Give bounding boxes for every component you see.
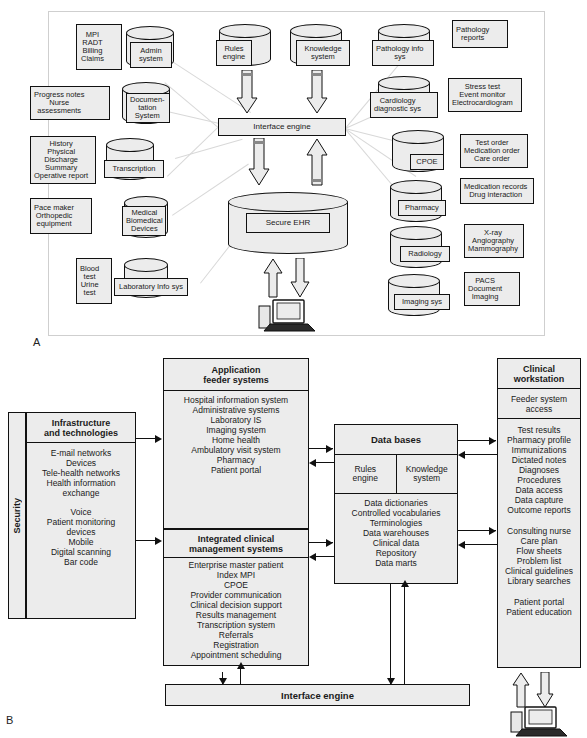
label-imaging-sys-text: Imaging sys (402, 298, 442, 306)
databases-items: Data dictionariesControlled vocabularies… (335, 494, 457, 571)
label-imaging-sys: Imaging sys (394, 294, 450, 310)
note-documentation-text: Progress notesNurseassessments (34, 91, 84, 115)
label-rules-engine-text: Rulesengine (223, 45, 246, 61)
note-medical-devices-text: Pace makerOrthopedicequipment (34, 204, 74, 228)
note-pacs-text: PACSDocumentImaging (468, 277, 502, 301)
label-pharmacy: Pharmacy (398, 200, 446, 216)
label-documentation-system-text: Documen-tationSystem (130, 96, 165, 120)
note-orders: Test orderMedication orderCare order (460, 134, 528, 168)
label-medical-devices-text: MedicalBiomedicalDevices (126, 209, 163, 233)
arrow-workstation-down-to-ehr (290, 258, 310, 298)
databases-title: Data bases (335, 425, 457, 455)
note-pathology-reports: Pathologyreports (452, 20, 508, 48)
note-medical-devices: Pace makerOrthopedicequipment (30, 198, 92, 234)
panel-b-interface-engine: Interface engine (165, 684, 470, 706)
label-cardiology-diagnostic-sys-text: Cardiologydiagnostic sys (374, 97, 421, 113)
arrow-knowledge-to-interface (306, 70, 328, 114)
application-feeder-title: Applicationfeeder systems (164, 359, 308, 391)
databases-rules-engine: Rulesengine (335, 455, 397, 493)
label-radiology: Radiology (400, 246, 450, 262)
note-radiology-modalities: X-rayAngiographyMammography (464, 224, 524, 258)
clinical-workstation-group1: Test resultsPharmacy profileImmunization… (498, 419, 580, 518)
note-orders-text: Test orderMedication orderCare order (464, 139, 520, 163)
label-transcription-text: Transcription (112, 165, 155, 173)
security-band: Security (8, 412, 26, 619)
clinical-workstation-group3: Patient portalPatient education (498, 589, 580, 620)
application-feeder-items: Hospital information systemAdministrativ… (164, 391, 308, 478)
label-transcription: Transcription (104, 160, 164, 178)
arrow-workstation-up-panel-b (512, 672, 530, 708)
label-admin-system-text: Adminsystem (139, 47, 163, 63)
note-documentation: Progress notesNurseassessments (30, 86, 110, 120)
label-pathology-info-sys: Pathology infosys (372, 40, 434, 66)
label-knowledge-system: Knowledgesystem (296, 40, 350, 66)
panel-a-interface-engine-text: Interface engine (253, 123, 310, 132)
arrow-ehr-to-interface (306, 138, 328, 186)
label-rules-engine: Rulesengine (216, 40, 252, 66)
note-admin: MPIRADTBillingClaims (76, 24, 122, 70)
panel-a-label: A (33, 336, 40, 348)
note-medication-records: Medication recordsDrug interaction (460, 178, 534, 204)
application-feeder-box: Applicationfeeder systems Hospital infor… (163, 358, 309, 529)
integrated-clinical-items: Enterprise master patientIndex MPICPOEPr… (164, 558, 308, 663)
label-laboratory-info-sys: Laboratory Info sys (114, 278, 188, 296)
panel-b-label: B (6, 714, 13, 726)
note-transcription-text: HistoryPhysicalDischargeSummaryOperative… (34, 140, 88, 180)
arrow-ehr-up-to-workstation (263, 258, 283, 298)
note-admin-text: MPIRADTBillingClaims (81, 31, 104, 63)
clinical-workstation-access: Feeder systemaccess (498, 389, 580, 419)
label-cardiology-diagnostic-sys: Cardiologydiagnostic sys (370, 92, 438, 118)
clinical-workstation-group2: Consulting nurseCare planFlow sheetsProb… (498, 518, 580, 589)
clinical-workstation-box: Clinicalworkstation Feeder systemaccess … (497, 358, 581, 668)
infrastructure-group2: VoicePatient monitoringdevicesMobileDigi… (27, 501, 135, 570)
label-secure-ehr-text: Secure EHR (266, 219, 310, 228)
label-pathology-info-sys-text: Pathology infosys (376, 45, 424, 61)
label-radiology-text: Radiology (408, 250, 441, 258)
label-secure-ehr: Secure EHR (246, 213, 330, 233)
arrow-interface-to-ehr (248, 138, 270, 186)
note-pacs: PACSDocumentImaging (464, 272, 520, 306)
arrow-rules-to-interface (236, 70, 258, 114)
arrow-workstation-down-panel-b (536, 672, 554, 708)
note-laboratory: BloodtestUrinetest (76, 258, 112, 304)
panel-a-interface-engine: Interface engine (218, 118, 346, 136)
infrastructure-group1: E-mail networksDevicesTele-health networ… (27, 443, 135, 501)
label-cpoe-text: CPOE (416, 158, 437, 166)
note-transcription: HistoryPhysicalDischargeSummaryOperative… (30, 136, 96, 184)
label-knowledge-system-text: Knowledgesystem (304, 45, 341, 61)
label-laboratory-info-sys-text: Laboratory Info sys (119, 283, 183, 291)
panel-b-interface-engine-text: Interface engine (281, 690, 354, 701)
clinical-workstation-title: Clinicalworkstation (498, 359, 580, 389)
note-medication-records-text: Medication recordsDrug interaction (464, 183, 527, 199)
note-cardiology-tests-text: Stress testEvent monitorElectrocardiogra… (452, 83, 513, 107)
security-band-text: Security (12, 498, 22, 534)
infrastructure-box: Infrastructureand technologies E-mail ne… (26, 412, 136, 619)
label-documentation-system: Documen-tationSystem (126, 93, 170, 123)
label-medical-devices: MedicalBiomedicalDevices (122, 206, 166, 236)
integrated-clinical-title: Integrated clinicalmanagement systems (164, 530, 308, 558)
databases-knowledge-system: Knowledgesystem (397, 455, 458, 493)
note-cardiology-tests: Stress testEvent monitorElectrocardiogra… (448, 78, 522, 112)
note-radiology-modalities-text: X-rayAngiographyMammography (468, 229, 518, 253)
label-pharmacy-text: Pharmacy (405, 204, 439, 212)
infrastructure-title: Infrastructureand technologies (27, 413, 135, 443)
workstation-icon-panel-a (256, 298, 318, 338)
note-laboratory-text: BloodtestUrinetest (80, 265, 99, 297)
note-pathology-reports-text: Pathologyreports (456, 26, 489, 42)
label-cpoe: CPOE (410, 154, 444, 170)
label-admin-system: Adminsystem (130, 42, 172, 68)
databases-box: Data bases Rulesengine Knowledgesystem D… (334, 424, 458, 584)
workstation-icon-panel-b (508, 706, 570, 738)
integrated-clinical-box: Integrated clinicalmanagement systems En… (163, 529, 309, 666)
